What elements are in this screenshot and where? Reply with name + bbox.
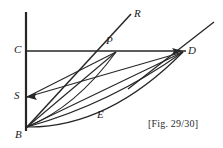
chord-S-to-D bbox=[27, 52, 183, 97]
arrow-into-S-icon bbox=[26, 93, 37, 100]
point-label-E: E bbox=[97, 109, 104, 120]
geometry-figure: C S B P D R E [Fig. 29/30] bbox=[0, 0, 223, 148]
point-label-S: S bbox=[14, 90, 20, 101]
point-label-C: C bbox=[14, 44, 21, 55]
ray-B-P-R bbox=[27, 14, 131, 127]
figure-caption: [Fig. 29/30] bbox=[148, 118, 198, 129]
point-label-B: B bbox=[15, 129, 22, 140]
point-label-R: R bbox=[134, 8, 141, 19]
point-label-P: P bbox=[106, 35, 113, 46]
point-label-D: D bbox=[188, 45, 196, 56]
